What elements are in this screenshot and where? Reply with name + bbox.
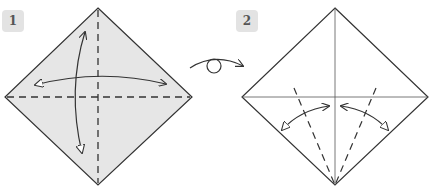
turn-over-icon bbox=[190, 59, 243, 73]
origami-diagram bbox=[0, 0, 434, 194]
step-2-diagram bbox=[242, 8, 428, 185]
step-1-diagram bbox=[5, 8, 192, 185]
step-2-number-badge: 2 bbox=[236, 10, 258, 32]
step-1-number-badge: 1 bbox=[2, 10, 24, 32]
